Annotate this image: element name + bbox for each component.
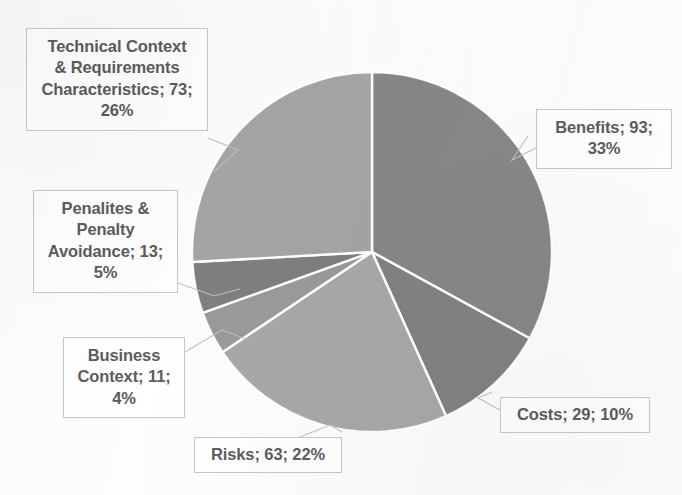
- label-line: 5%: [40, 262, 171, 283]
- label-line: Context; 11;: [70, 366, 178, 387]
- slice-label-benefits: Benefits; 93; 33%: [536, 109, 672, 169]
- label-line: Characteristics; 73;: [33, 79, 201, 100]
- label-line: 33%: [543, 138, 665, 159]
- label-line: Penalty: [40, 219, 171, 240]
- slice-label-business-context: Business Context; 11; 4%: [63, 337, 185, 418]
- chart-page: Technical Context & Requirements Charact…: [0, 0, 682, 495]
- label-line: 26%: [33, 100, 201, 121]
- label-line: 4%: [70, 388, 178, 409]
- label-line: Costs; 29; 10%: [505, 404, 645, 425]
- label-line: Avoidance; 13;: [40, 241, 171, 262]
- pie-slice[interactable]: [192, 72, 372, 262]
- slice-label-risks: Risks; 63; 22%: [194, 437, 342, 473]
- slice-label-technical-context: Technical Context & Requirements Charact…: [26, 28, 208, 131]
- label-line: Risks; 63; 22%: [199, 444, 337, 465]
- label-line: Business: [70, 345, 178, 366]
- label-line: Technical Context: [33, 36, 201, 57]
- slice-label-costs: Costs; 29; 10%: [500, 397, 650, 433]
- label-line: Benefits; 93;: [543, 117, 665, 138]
- slice-label-penalties-penalty-avoidance: Penalites & Penalty Avoidance; 13; 5%: [33, 190, 178, 293]
- label-line: Penalites &: [40, 198, 171, 219]
- label-line: & Requirements: [33, 57, 201, 78]
- pie-chart: Technical Context & Requirements Charact…: [0, 0, 682, 495]
